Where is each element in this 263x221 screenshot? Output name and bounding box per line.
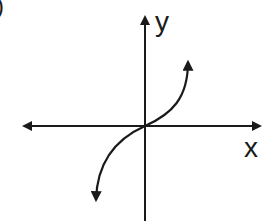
graph-svg bbox=[0, 0, 263, 221]
y-axis-label: y bbox=[155, 8, 169, 36]
x-axis-label: x bbox=[244, 134, 258, 162]
function-curve bbox=[96, 62, 188, 200]
graph-figure: ) y x bbox=[0, 0, 263, 221]
partial-parenthesis: ) bbox=[0, 0, 4, 18]
